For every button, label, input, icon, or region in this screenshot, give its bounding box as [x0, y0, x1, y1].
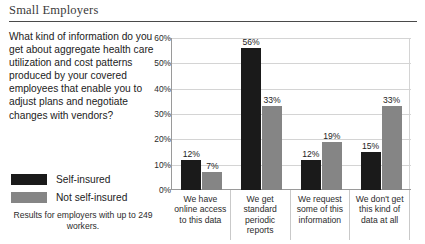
bar-value-label: 33%	[375, 95, 409, 105]
bar-value-label: 56%	[234, 37, 268, 47]
y-axis-tick-label: 60%	[146, 33, 171, 43]
chart-footnote: Results for employers with up to 249 wor…	[4, 210, 162, 231]
bar[interactable]	[382, 106, 402, 190]
legend-item: Not self-insured	[11, 189, 161, 205]
y-axis-tick-label: 20%	[146, 134, 171, 144]
bar-value-label: 12%	[174, 149, 208, 159]
legend-swatch-not-self-insured	[11, 192, 47, 203]
y-axis: 0%10%20%30%40%50%60%	[146, 38, 171, 190]
page-title: Small Employers	[9, 3, 98, 18]
bar-value-label: 7%	[195, 161, 229, 171]
bar[interactable]	[262, 106, 282, 190]
y-axis-tick-label: 30%	[146, 109, 171, 119]
x-axis-category-label: We get standard periodic reports	[231, 190, 291, 240]
header-divider	[9, 21, 417, 22]
bar[interactable]	[301, 160, 321, 190]
legend-swatch-self-insured	[11, 174, 47, 185]
bar[interactable]	[241, 48, 261, 190]
x-axis: We have online access to this dataWe get…	[171, 190, 410, 240]
bar[interactable]	[361, 152, 381, 190]
survey-question: What kind of information do you get abou…	[9, 30, 159, 122]
y-axis-tick-label: 0%	[146, 185, 171, 195]
bar-value-label: 19%	[315, 131, 349, 141]
bar-group: 56%33%	[232, 38, 292, 190]
x-axis-category-label: We request some of this information	[291, 190, 351, 240]
bar-group: 15%33%	[351, 38, 411, 190]
x-axis-category-label: We have online access to this data	[171, 190, 231, 240]
header: Small Employers	[0, 0, 425, 22]
bar-value-label: 33%	[255, 95, 289, 105]
legend-item: Self-insured	[11, 171, 161, 187]
chart-legend: Self-insured Not self-insured	[11, 171, 161, 207]
x-axis-category-label: We don't get this kind of data at all	[350, 190, 410, 240]
y-axis-tick-label: 40%	[146, 84, 171, 94]
left-panel: What kind of information do you get abou…	[0, 28, 165, 244]
y-axis-tick-label: 10%	[146, 160, 171, 170]
legend-label: Not self-insured	[56, 192, 127, 203]
legend-label: Self-insured	[56, 174, 110, 185]
bar-group: 12%7%	[172, 38, 232, 190]
bar[interactable]	[322, 142, 342, 190]
bar[interactable]	[202, 172, 222, 190]
bar-group: 12%19%	[292, 38, 352, 190]
plot-area: 12%7%56%33%12%19%15%33%	[171, 38, 410, 190]
y-axis-tick-label: 50%	[146, 58, 171, 68]
bar-chart: 0%10%20%30%40%50%60% 12%7%56%33%12%19%15…	[146, 38, 425, 244]
